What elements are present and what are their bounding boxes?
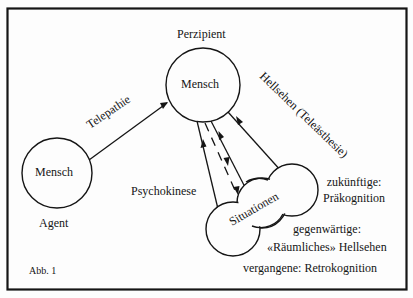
figure-caption: Abb. 1 [29,264,56,277]
agent-role-label: Agent [39,217,68,230]
psychokinesis-dashed-line [205,123,238,197]
telepathy-label: Telepathie [84,92,133,131]
retrocognition-label: vergangene: Retrokognition [243,262,377,275]
perzipient-role-label: Perzipient [177,28,226,41]
psychokinesis-arrowhead-1 [224,157,230,166]
clairvoyance-label: Hellsehen (Teleästhesie) [257,69,351,161]
perception-line-left [197,121,218,209]
present-time-label: gegenwärtige: [293,223,361,236]
agent-node-label: Mensch [35,166,73,179]
clairvoyance-line [228,112,282,172]
clairvoyance-arrowhead [236,116,243,125]
spatial-clairvoyance-label: «Räumliches» Hellsehen [267,241,387,254]
perzipient-node-label: Mensch [181,78,219,91]
psychokinesis-label: Psychokinese [131,185,196,198]
perception-line-middle-arrowhead [219,131,225,140]
future-time-label: zukünftige: [324,176,384,189]
parapsychology-diagram: Situationen Telepathie Hellsehen (Teleäs… [0,0,413,298]
precognition-label: Präkognition [314,192,394,205]
perception-line-middle [211,121,247,191]
